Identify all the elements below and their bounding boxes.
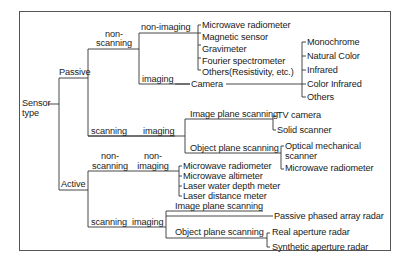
list-item: Synthetic aperture radar xyxy=(272,242,368,252)
camera-label: Camera xyxy=(191,79,223,89)
active-image-plane-label: Image plane scanning xyxy=(175,201,263,211)
camera-type: Monochrome xyxy=(307,37,360,47)
passive-nonimaging-label: non-imaging xyxy=(141,22,190,32)
root-label-line2: type xyxy=(22,108,39,118)
passive-nonscanning-line2: scanning xyxy=(90,38,138,48)
active-object-plane-label: Object plane scanning xyxy=(175,227,264,237)
active-nonscanning-line2: scanning xyxy=(88,161,132,171)
active-label: Active xyxy=(61,179,85,189)
passive-scanning-label: scanning xyxy=(91,126,127,136)
active-scanning-label: scanning xyxy=(91,217,127,227)
list-item: TV camera xyxy=(277,110,321,120)
list-item: Fourier spectrometer xyxy=(202,56,285,66)
active-nonimaging-line1: non- xyxy=(134,151,172,161)
list-item: Others(Resistivity, etc.) xyxy=(202,67,294,77)
camera-type: Natural Color xyxy=(307,51,360,61)
list-item: Magnetic sensor xyxy=(202,32,268,42)
passive-imaging-label: imaging xyxy=(142,74,173,84)
list-item: scanner xyxy=(285,151,317,161)
list-item: Laser distance meter xyxy=(183,191,267,201)
list-item: Gravimeter xyxy=(202,44,246,54)
root-label-line1: Sensor xyxy=(22,98,51,108)
passive-scanning-imaging-label: imaging xyxy=(143,126,174,136)
list-item: Laser water depth meter xyxy=(183,181,280,191)
active-scanning-imaging-label: imaging xyxy=(132,217,163,227)
passive-object-plane-label: Object plane scanning xyxy=(190,143,279,153)
list-item: Microwave radiometer xyxy=(202,20,290,30)
camera-type: Infrared xyxy=(307,65,338,75)
passive-image-plane-label: Image plane scanning xyxy=(190,109,278,119)
active-nonimaging-line2: imaging xyxy=(134,161,172,171)
list-item: Passive phased array radar xyxy=(274,211,384,221)
list-item: Microwave radiometer xyxy=(285,163,373,173)
list-item: Microwave altimeter xyxy=(183,171,263,181)
camera-type: Color Infrared xyxy=(307,79,362,89)
camera-type: Others xyxy=(307,92,334,102)
passive-label: Passive xyxy=(59,67,90,77)
list-item: Real aperture radar xyxy=(272,227,350,237)
list-item: Microwave radiometer xyxy=(183,161,271,171)
list-item: Optical mechanical xyxy=(285,141,361,151)
list-item: Solid scanner xyxy=(277,125,331,135)
active-nonscanning-line1: non- xyxy=(88,151,132,161)
